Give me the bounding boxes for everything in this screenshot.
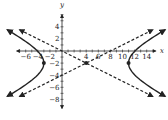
center-point [84,61,88,65]
x-tick-label: 10 [118,53,127,61]
hyperbola-graph: −6−4−246810121442−2−4−6−8 x y [0,0,168,120]
x-axis-label: x [160,47,164,55]
y-tick-label: −6 [49,84,60,92]
x-tick-label: −6 [21,53,32,61]
vertex-left-point [42,61,46,65]
y-tick-label: 2 [55,35,59,43]
vertex-right-point [127,61,131,65]
y-tick-label: −8 [49,96,59,104]
y-tick-label: −4 [49,72,60,80]
x-tick-label: 8 [108,53,112,61]
y-tick-label: 4 [55,23,60,31]
x-tick-label: 4 [84,53,89,61]
y-tick-label: −2 [49,60,59,68]
y-axis-label: y [59,1,65,9]
x-tick-label: 6 [96,53,101,61]
x-tick-label: 14 [142,53,151,61]
